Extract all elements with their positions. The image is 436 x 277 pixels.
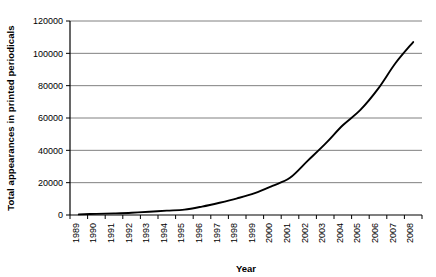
x-tick-label: 2005 [352,223,362,243]
line-chart: 020000400006000080000100000120000 198919… [0,0,436,277]
x-axis-title: Year [236,263,256,274]
y-axis-title: Total appearances in printed periodicals [5,25,16,210]
x-tick-label: 2006 [370,223,380,243]
x-tick-label: 1998 [229,223,239,243]
x-tick-label: 1990 [88,223,98,243]
x-tick-label: 2008 [405,223,415,243]
x-tick-label: 1992 [124,223,134,243]
y-tick-label: 60000 [38,113,63,123]
x-tick-label: 1999 [247,223,257,243]
y-tick-label: 120000 [33,16,63,26]
x-tick-label: 2000 [264,223,274,243]
x-tick-label: 2002 [300,223,310,243]
y-tick-label: 40000 [38,146,63,156]
x-tick-label: 2001 [282,223,292,243]
y-tick-label: 0 [58,210,63,220]
x-tick-label: 1995 [176,223,186,243]
x-tick-label: 2007 [388,223,398,243]
x-tick-label: 1993 [141,223,151,243]
x-tick-label: 2003 [317,223,327,243]
x-tick-label: 1997 [212,223,222,243]
x-tick-label: 1991 [106,223,116,243]
y-tick-label: 20000 [38,178,63,188]
x-tick-marks [70,215,422,219]
x-tick-label: 1994 [159,223,169,243]
y-tick-label: 100000 [33,49,63,59]
x-tick-label: 1996 [194,223,204,243]
chart-figure: 020000400006000080000100000120000 198919… [0,0,436,277]
x-tick-label: 1989 [71,223,81,243]
x-tick-label: 2004 [335,223,345,243]
y-tick-label: 80000 [38,81,63,91]
